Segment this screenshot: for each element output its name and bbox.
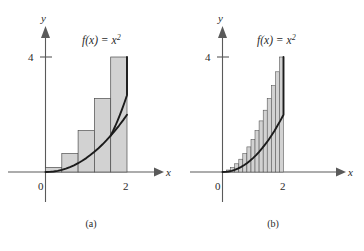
figure-container: x y 0 2 4 f(x) =x2	[0, 0, 364, 251]
function-label-b-text: f(x) =	[257, 34, 284, 47]
function-label-a: f(x) =x2	[82, 33, 121, 47]
origin-label-a: 0	[38, 180, 44, 192]
y-tick-label-b: 4	[205, 51, 211, 63]
y-axis-arrow-b	[218, 26, 227, 38]
riemann-bar	[111, 57, 127, 172]
x-axis-arrow-b	[336, 168, 346, 177]
x-axis-label-a: x	[165, 166, 171, 178]
riemann-bar	[94, 98, 110, 172]
x-axis-label-b: x	[347, 166, 353, 178]
x-axis-arrow-a	[154, 168, 164, 177]
function-label-a-exponent: 2	[117, 33, 121, 42]
function-label-a-text: f(x) =	[82, 34, 109, 47]
panel-a: x y 0 2 4 f(x) =x2	[0, 0, 182, 251]
caption-panel-a: (a)	[71, 218, 111, 229]
panel-b-plot: x y 0 2 4 f(x) =x2	[182, 0, 364, 251]
panel-b: x y 0 2 4 f(x) =x2	[182, 0, 364, 251]
riemann-bar	[78, 131, 94, 172]
x-tick-label-b: 2	[280, 180, 286, 192]
y-axis-label-b: y	[217, 12, 223, 24]
y-axis-label-a: y	[40, 12, 46, 24]
caption-panel-b: (b)	[253, 218, 293, 229]
panel-a-plot: x y 0 2 4 f(x) =x2	[0, 0, 182, 251]
origin-label-b: 0	[215, 180, 221, 192]
function-label-b: f(x) =x2	[257, 33, 296, 47]
function-label-b-exponent: 2	[292, 33, 296, 42]
y-tick-label-a: 4	[28, 51, 34, 63]
y-axis-arrow-a	[41, 26, 50, 38]
riemann-rectangles-b	[223, 57, 284, 172]
x-tick-label-a: 2	[123, 180, 129, 192]
riemann-rectangles-a	[46, 57, 128, 172]
